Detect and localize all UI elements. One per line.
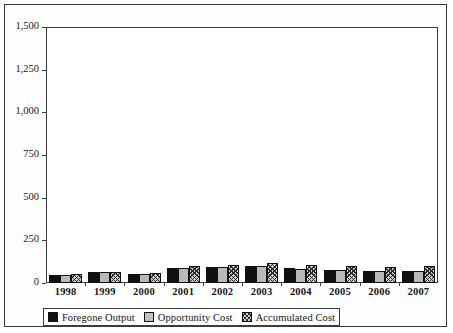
bar xyxy=(139,274,150,283)
bar xyxy=(402,271,413,283)
bar xyxy=(424,266,435,283)
chart-legend: Foregone OutputOpportunity CostAccumulat… xyxy=(43,308,340,326)
bar xyxy=(71,274,82,283)
legend-item[interactable]: Accumulated Cost xyxy=(242,312,335,323)
y-axis-tick-label: 0 xyxy=(34,276,39,287)
bar-group xyxy=(128,27,161,283)
legend-label: Accumulated Cost xyxy=(256,312,335,323)
x-axis-tick-label: 2004 xyxy=(279,286,323,297)
bar-group xyxy=(363,27,396,283)
bar xyxy=(335,270,346,283)
bar-group xyxy=(206,27,239,283)
x-axis-tick-label: 1998 xyxy=(44,286,88,297)
bar-group xyxy=(402,27,435,283)
x-axis-tick-label: 2003 xyxy=(240,286,284,297)
x-axis-labels: 1998199920002001200220032004200520062007 xyxy=(46,286,438,302)
bar xyxy=(306,265,317,283)
bar xyxy=(88,272,99,283)
bar xyxy=(49,275,60,283)
bar xyxy=(206,267,217,283)
y-axis-tick-label: 750 xyxy=(23,148,39,159)
y-axis-tick-label: 500 xyxy=(23,191,39,202)
bar xyxy=(295,269,306,284)
bar xyxy=(245,266,256,283)
bar-group xyxy=(88,27,121,283)
x-axis-tick-label: 2000 xyxy=(122,286,166,297)
bar-group xyxy=(284,27,317,283)
bar xyxy=(189,266,200,283)
bar-group xyxy=(167,27,200,283)
y-axis-tick-label: 1,250 xyxy=(15,63,39,74)
bar xyxy=(110,272,121,283)
bar xyxy=(385,267,396,283)
x-axis-tick-label: 2002 xyxy=(200,286,244,297)
x-axis-tick-label: 2005 xyxy=(318,286,362,297)
legend-item[interactable]: Foregone Output xyxy=(48,312,135,323)
legend-item[interactable]: Opportunity Cost xyxy=(144,312,233,323)
bar xyxy=(256,266,267,283)
bar xyxy=(150,273,161,283)
bar-group xyxy=(245,27,278,283)
bar xyxy=(228,265,239,283)
bar xyxy=(60,275,71,283)
light-gray-swatch xyxy=(144,312,154,322)
bar xyxy=(413,271,424,283)
bar-group xyxy=(324,27,357,283)
bar-group xyxy=(49,27,82,283)
bar xyxy=(217,267,228,283)
y-axis-tick-label: 1,000 xyxy=(15,105,39,116)
x-axis-tick-label: 1999 xyxy=(83,286,127,297)
legend-label: Foregone Output xyxy=(62,312,135,323)
y-axis-tick-label: 1,500 xyxy=(15,20,39,31)
bar-series-layer xyxy=(46,27,438,283)
bar xyxy=(363,271,374,283)
bar xyxy=(284,268,295,283)
bar xyxy=(167,268,178,283)
x-axis-tick-label: 2006 xyxy=(357,286,401,297)
bar xyxy=(267,263,278,283)
x-axis-tick-label: 2001 xyxy=(161,286,205,297)
y-axis: 02505007501,0001,2501,500 xyxy=(5,5,46,333)
bar xyxy=(128,274,139,283)
bar xyxy=(99,272,110,283)
solid-black-swatch xyxy=(48,312,58,322)
figure-frame: 02505007501,0001,2501,500 19981999200020… xyxy=(4,4,447,327)
bar xyxy=(178,268,189,283)
y-axis-tick-label: 250 xyxy=(23,233,39,244)
hatched-swatch xyxy=(242,312,252,322)
bar xyxy=(346,266,357,283)
bar xyxy=(374,271,385,283)
x-axis-tick-label: 2007 xyxy=(396,286,440,297)
bar xyxy=(324,270,335,283)
legend-label: Opportunity Cost xyxy=(158,312,233,323)
